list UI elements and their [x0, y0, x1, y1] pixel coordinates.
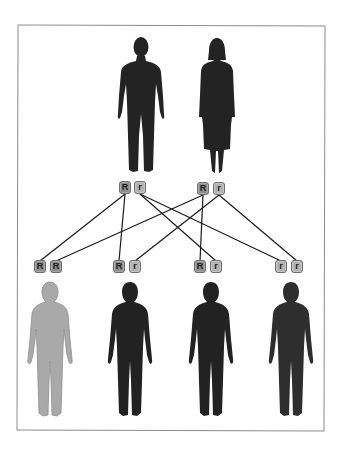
allele-father-dominant: R — [119, 181, 131, 194]
male-silhouette-icon — [116, 36, 166, 176]
father-figure — [116, 36, 166, 176]
allele-father-recessive: r — [134, 181, 146, 194]
allele-child2-second: r — [129, 260, 141, 273]
allele-mother-recessive: r — [213, 182, 225, 195]
child3-figure — [188, 281, 234, 419]
mother-figure — [197, 37, 237, 176]
child2-figure — [107, 281, 153, 419]
allele-child1-second: R — [50, 260, 62, 273]
allele-child4-second: r — [291, 260, 303, 273]
allele-mother-dominant: R — [197, 182, 209, 195]
allele-child1-first: R — [34, 260, 46, 273]
allele-child4-first: r — [275, 260, 287, 273]
person-silhouette-dark-icon — [268, 281, 314, 419]
allele-child2-first: R — [113, 260, 125, 273]
child4-figure — [268, 281, 314, 419]
allele-child3-first: R — [194, 260, 206, 273]
person-silhouette-light-icon — [27, 281, 73, 419]
allele-child3-second: r — [210, 260, 222, 273]
person-silhouette-dark-icon — [107, 281, 153, 419]
person-silhouette-dark-icon — [188, 281, 234, 419]
female-silhouette-icon — [197, 37, 237, 176]
child1-figure — [27, 281, 73, 419]
